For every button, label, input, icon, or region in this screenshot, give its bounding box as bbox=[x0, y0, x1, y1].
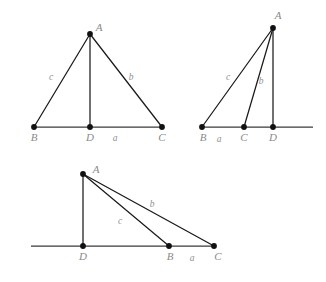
vertex-point-C bbox=[241, 124, 247, 130]
side-label-c: c bbox=[49, 72, 54, 82]
vertex-point-B bbox=[199, 124, 205, 130]
side-label-a: a bbox=[113, 133, 118, 143]
vertex-point-B bbox=[166, 243, 172, 249]
side-label-b: b bbox=[259, 76, 264, 86]
vertex-label-D: D bbox=[78, 250, 87, 262]
diagram-acute-triangle: A B D C c b a bbox=[31, 21, 167, 144]
diagram-canvas: A B D C c b a A B C D c b a bbox=[0, 0, 326, 282]
vertex-point-A bbox=[80, 171, 86, 177]
vertex-point-B bbox=[31, 124, 37, 130]
side-label-a: a bbox=[190, 253, 195, 263]
segment-side-b-AC bbox=[90, 34, 162, 127]
diagram-obtuse-triangle-foot-right: A B C D c b a bbox=[199, 9, 313, 145]
segment-side-b-AC bbox=[83, 174, 214, 246]
vertex-point-C bbox=[159, 124, 165, 130]
side-label-b: b bbox=[129, 72, 134, 82]
vertex-label-C: C bbox=[158, 131, 166, 143]
vertex-label-A: A bbox=[92, 163, 100, 175]
side-label-a: a bbox=[217, 134, 222, 144]
vertex-point-C bbox=[211, 243, 217, 249]
vertex-label-D: D bbox=[268, 131, 277, 143]
vertex-point-D bbox=[270, 124, 276, 130]
vertex-label-A: A bbox=[274, 9, 282, 21]
vertex-label-B: B bbox=[31, 131, 38, 143]
side-label-c: c bbox=[118, 216, 123, 226]
vertex-label-B: B bbox=[167, 250, 174, 262]
vertex-point-D bbox=[87, 124, 93, 130]
vertex-point-D bbox=[80, 243, 86, 249]
vertex-point-A bbox=[270, 25, 276, 31]
segment-side-c-AB bbox=[83, 174, 169, 246]
vertex-label-B: B bbox=[200, 131, 207, 143]
vertex-label-D: D bbox=[85, 131, 94, 143]
side-label-b: b bbox=[150, 199, 155, 209]
diagram-obtuse-triangle-foot-left: A D B C b c a bbox=[31, 163, 222, 264]
segment-side-c-AB bbox=[34, 34, 90, 127]
vertex-label-A: A bbox=[95, 21, 103, 33]
side-label-c: c bbox=[226, 72, 231, 82]
vertex-label-C: C bbox=[240, 131, 248, 143]
vertex-label-C: C bbox=[214, 250, 222, 262]
geometry-figure-svg: A B D C c b a A B C D c b a bbox=[0, 0, 326, 282]
vertex-point-A bbox=[87, 31, 93, 37]
